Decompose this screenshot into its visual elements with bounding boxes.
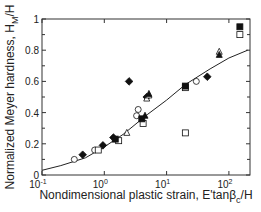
chart: 00.20.40.60.8110-1100101102 Nondimension…	[0, 0, 261, 212]
data-point-square-open	[237, 32, 243, 38]
data-point-square-filled	[182, 83, 188, 89]
y-tick-label: 0.6	[25, 76, 39, 87]
y-tick-label: 1	[33, 14, 39, 25]
data-point-diamond-filled	[203, 73, 211, 81]
data-point-triangle-open	[124, 129, 130, 135]
axis-tick-labels: 00.20.40.60.8110-1100101102	[25, 14, 232, 190]
data-point-square-filled	[112, 136, 118, 142]
data-point-square-filled	[237, 24, 243, 30]
data-point-square-open	[182, 130, 188, 136]
y-tick-label: 0.2	[25, 139, 39, 150]
data-point-circle-open	[193, 78, 199, 84]
data-point-square-open	[95, 147, 101, 153]
x-axis-label: Nondimensional plastic strain, E'tanβc/H	[39, 188, 252, 205]
data-point-circle-open	[135, 106, 141, 112]
y-axis-label: Normalized Meyer hardness, HM/H	[3, 5, 20, 190]
fit-curve	[42, 50, 248, 170]
data-point-diamond-filled	[125, 78, 133, 86]
data-point-circle-open	[71, 156, 77, 162]
y-tick-label: 0.4	[25, 108, 39, 119]
data-points	[71, 24, 243, 163]
y-tick-label: 0.8	[25, 45, 39, 56]
